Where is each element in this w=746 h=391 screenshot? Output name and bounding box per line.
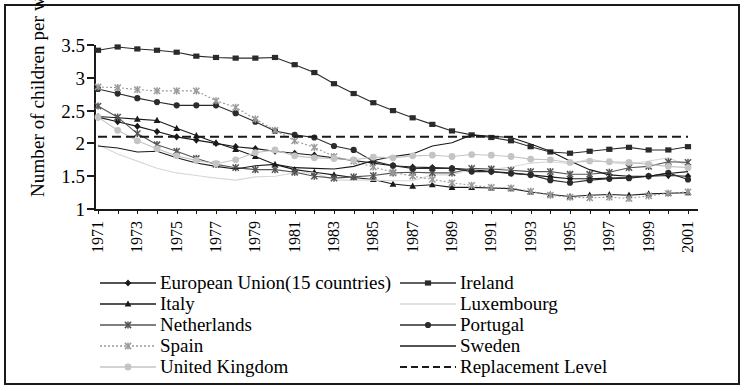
y-tick-label: 3 <box>76 68 86 87</box>
y-axis-title: Number of children per woman <box>27 0 49 197</box>
series-ireland <box>95 44 691 155</box>
plot-area: 11.522.533.5 197119731975197719791981198… <box>94 41 698 211</box>
legend-label: Luxembourg <box>460 294 558 313</box>
legend-label: United Kingdom <box>160 357 288 376</box>
legend-marker-icon <box>98 360 160 374</box>
x-tick-label: 1991 <box>483 221 499 253</box>
legend-marker-icon <box>398 339 460 353</box>
legend-item[interactable]: Italy <box>98 293 398 314</box>
y-tick <box>87 175 94 177</box>
legend-marker-icon <box>398 276 460 290</box>
legend-marker-icon <box>98 339 160 353</box>
x-tick-label: 1971 <box>90 221 106 253</box>
x-tick-label: 1987 <box>405 221 421 253</box>
legend-marker-icon <box>98 276 160 290</box>
x-tick-label: 1997 <box>601 221 617 253</box>
x-tick-label: 1999 <box>641 221 657 253</box>
y-tick-label: 3.5 <box>61 36 85 55</box>
y-tick-label: 2.5 <box>61 101 85 120</box>
x-tick-label: 1983 <box>326 221 342 253</box>
legend-item[interactable]: Replacement Level <box>398 356 738 377</box>
legend-marker-icon <box>98 297 160 311</box>
legend-item[interactable]: Ireland <box>398 272 738 293</box>
x-tick-label: 1979 <box>247 221 263 253</box>
legend-label: Ireland <box>460 273 514 292</box>
legend-label: Italy <box>160 294 195 313</box>
chart-frame: Number of children per woman 11.522.533.… <box>4 4 740 385</box>
y-tick <box>87 142 94 144</box>
legend-label: Sweden <box>460 336 520 355</box>
y-tick-label: 1.5 <box>61 167 85 186</box>
legend-label: Spain <box>160 336 203 355</box>
x-tick-label: 2001 <box>680 221 696 253</box>
x-tick-label: 1973 <box>129 221 145 253</box>
series-lines <box>94 41 698 211</box>
chart-legend: European Union(15 countries)IrelandItaly… <box>98 272 738 378</box>
legend-marker-icon <box>398 318 460 332</box>
y-tick-label: 2 <box>76 134 86 153</box>
legend-label: European Union(15 countries) <box>160 273 391 292</box>
legend-marker-icon <box>98 318 160 332</box>
x-tick-label: 1981 <box>287 221 303 253</box>
y-tick <box>87 77 94 79</box>
y-tick <box>87 44 94 46</box>
x-tick-label: 1985 <box>365 221 381 253</box>
legend-item[interactable]: Sweden <box>398 335 738 356</box>
y-tick <box>87 208 94 210</box>
legend-item[interactable]: European Union(15 countries) <box>98 272 398 293</box>
legend-label: Replacement Level <box>460 357 607 376</box>
y-tick-label: 1 <box>76 200 86 219</box>
x-tick-label: 1993 <box>523 221 539 253</box>
legend-item[interactable]: Portugal <box>398 314 738 335</box>
legend-item[interactable]: Spain <box>98 335 398 356</box>
legend-item[interactable]: Luxembourg <box>398 293 738 314</box>
x-tick-label: 1989 <box>444 221 460 253</box>
x-tick-label: 1995 <box>562 221 578 253</box>
y-tick <box>87 110 94 112</box>
legend-marker-icon <box>398 297 460 311</box>
legend-item[interactable]: United Kingdom <box>98 356 398 377</box>
legend-label: Netherlands <box>160 315 252 334</box>
x-tick-label: 1975 <box>169 221 185 253</box>
legend-item[interactable]: Netherlands <box>98 314 398 335</box>
legend-marker-icon <box>398 360 460 374</box>
x-tick-label: 1977 <box>208 221 224 253</box>
legend-label: Portugal <box>460 315 524 334</box>
